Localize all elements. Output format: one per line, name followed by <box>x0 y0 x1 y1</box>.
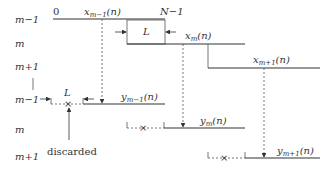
out-row-label-m: m <box>15 124 24 135</box>
row-label-m-plus-1: m+1 <box>15 61 39 72</box>
overlap-length-label: L <box>142 26 150 37</box>
axis-end-label: N−1 <box>159 6 184 17</box>
input-label-x-m-minus-1: xm−1(n) <box>84 6 121 19</box>
axis-start-label: 0 <box>53 6 59 17</box>
input-label-x-m: xm(n) <box>185 30 212 43</box>
cross-icon: × <box>64 98 72 109</box>
cross-icon: × <box>139 122 147 133</box>
discarded-label: discarded <box>47 146 97 157</box>
out-row-label-m-plus-1: m+1 <box>15 151 39 162</box>
row-label-m: m <box>15 38 24 49</box>
output-label-y-m: ym(n) <box>199 115 227 128</box>
cross-icon: × <box>220 152 228 163</box>
output-label-y-m-minus-1: ym−1(n) <box>120 91 158 104</box>
row-label-m-minus-1: m−1 <box>15 14 39 25</box>
overlap-save-diagram: m−1 m m+1 m−1 m m+1 0 N−1 xm−1(n) L xm(n… <box>0 0 333 171</box>
input-label-x-m-plus-1: xm+1(n) <box>253 54 290 67</box>
discard-length-label: L <box>63 87 71 98</box>
output-label-y-m-plus-1: ym+1(n) <box>276 145 314 158</box>
out-row-label-m-minus-1: m−1 <box>15 94 39 105</box>
